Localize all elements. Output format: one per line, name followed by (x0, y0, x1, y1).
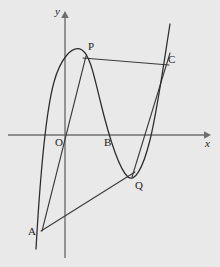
y-axis-arrowhead (61, 11, 69, 18)
x-axis-label: x (205, 138, 210, 149)
figure-canvas: y x P C O B Q A (0, 0, 220, 267)
point-label-q: Q (135, 180, 143, 191)
point-label-p: P (88, 41, 94, 52)
point-label-c: C (168, 54, 175, 65)
point-label-a: A (28, 226, 36, 237)
line-segment-p-c (83, 58, 169, 65)
line-segment-a-p (42, 56, 86, 231)
line-segment-q-c (132, 53, 170, 177)
point-label-b: B (104, 137, 111, 148)
point-label-o: O (55, 137, 63, 148)
y-axis-label: y (55, 6, 60, 17)
